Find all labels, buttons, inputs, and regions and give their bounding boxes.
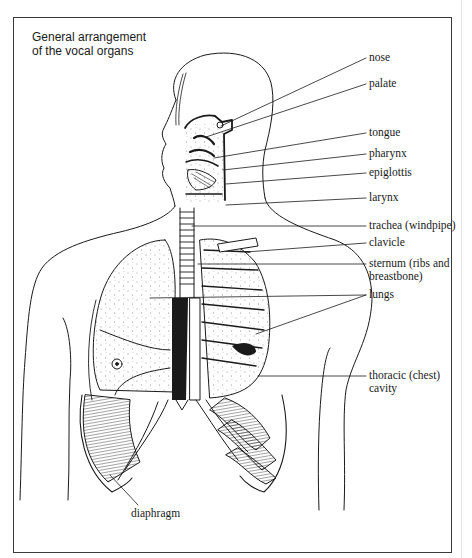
mediastinum bbox=[172, 298, 188, 400]
sternum bbox=[190, 298, 200, 400]
trachea bbox=[180, 208, 194, 298]
label-trachea: trachea (windpipe) bbox=[369, 219, 456, 232]
label-nose: nose bbox=[369, 51, 390, 64]
label-larynx: larynx bbox=[369, 191, 398, 204]
label-sternum-line-1: sternum (ribs and bbox=[369, 257, 449, 270]
left-lung bbox=[89, 240, 176, 400]
label-thoracic-cavity: thoracic (chest) cavity bbox=[369, 369, 440, 395]
label-tongue: tongue bbox=[369, 126, 400, 139]
vocal-tract bbox=[184, 116, 232, 205]
label-diaphragm: diaphragm bbox=[131, 507, 180, 520]
label-lungs: lungs bbox=[369, 288, 394, 301]
label-sternum-line-2: breastbone) bbox=[369, 270, 449, 283]
lower-ribs bbox=[80, 395, 286, 492]
label-thoracic-line-2: cavity bbox=[369, 382, 440, 395]
label-pharynx: pharynx bbox=[369, 147, 407, 160]
right-ribcage bbox=[200, 238, 270, 398]
label-sternum: sternum (ribs and breastbone) bbox=[369, 257, 449, 283]
label-epiglottis: epiglottis bbox=[369, 166, 412, 179]
label-palate: palate bbox=[369, 77, 396, 90]
label-clavicle: clavicle bbox=[369, 236, 405, 249]
xiphoid bbox=[176, 400, 188, 410]
label-thoracic-line-1: thoracic (chest) bbox=[369, 369, 440, 382]
